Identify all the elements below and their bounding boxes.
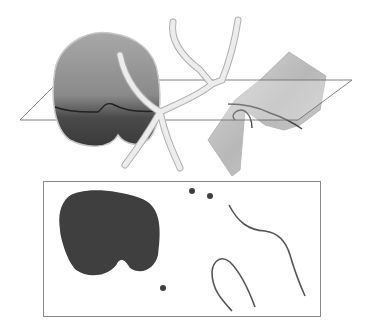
cross-section-diagram — [0, 0, 369, 334]
solid-blob — [53, 33, 160, 147]
blob-cross-section — [59, 190, 159, 275]
